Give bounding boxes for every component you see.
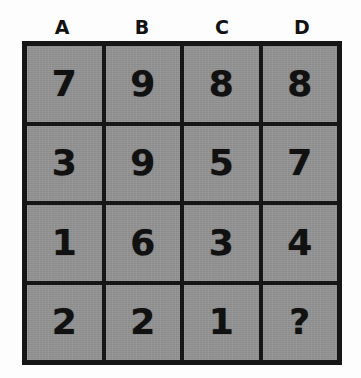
column-header-a-label: A: [55, 18, 70, 37]
grid-cell-a3[interactable]: 1: [27, 205, 102, 281]
column-header-b: B: [102, 13, 182, 41]
grid-cell-d1[interactable]: 8: [263, 46, 338, 122]
grid-cell-d4[interactable]: ?: [263, 285, 338, 361]
grid-cell-c2-value: 5: [209, 145, 234, 181]
grid-cell-d4-value-unknown: ?: [289, 304, 310, 340]
number-grid: 7 9 8 8 3 9 5 7 1 6 3: [22, 41, 342, 365]
grid-cell-a1-value: 7: [52, 66, 77, 102]
grid-cell-c1-value: 8: [209, 66, 234, 102]
grid-cell-b3[interactable]: 6: [106, 205, 181, 281]
grid-cell-a1[interactable]: 7: [27, 46, 102, 122]
grid-cell-a2-value: 3: [52, 145, 77, 181]
column-header-row: A B C D: [22, 13, 342, 41]
column-header-b-label: B: [135, 18, 149, 37]
grid-cell-a4-value: 2: [52, 304, 77, 340]
grid-cell-b1-value: 9: [130, 66, 155, 102]
grid-cell-c2[interactable]: 5: [184, 126, 259, 202]
grid-cell-d3[interactable]: 4: [263, 205, 338, 281]
grid-cell-b2[interactable]: 9: [106, 126, 181, 202]
grid-cell-d3-value: 4: [287, 225, 312, 261]
grid-cell-c3-value: 3: [209, 225, 234, 261]
grid-cell-a2[interactable]: 3: [27, 126, 102, 202]
grid-cell-b4-value: 2: [130, 304, 155, 340]
grid-cell-d2-value: 7: [287, 145, 312, 181]
column-header-d-label: D: [294, 18, 310, 37]
grid-cell-c4[interactable]: 1: [184, 285, 259, 361]
grid-cell-c1[interactable]: 8: [184, 46, 259, 122]
grid-cell-c4-value: 1: [209, 304, 234, 340]
column-header-a: A: [22, 13, 102, 41]
grid-cell-a4[interactable]: 2: [27, 285, 102, 361]
grid-cell-d1-value: 8: [287, 66, 312, 102]
column-header-c: C: [182, 13, 262, 41]
column-header-c-label: C: [215, 18, 229, 37]
column-header-d: D: [262, 13, 342, 41]
grid-cell-a3-value: 1: [52, 225, 77, 261]
grid-cell-b1[interactable]: 9: [106, 46, 181, 122]
grid-cell-b2-value: 9: [130, 145, 155, 181]
grid-cell-b3-value: 6: [130, 225, 155, 261]
grid-cell-d2[interactable]: 7: [263, 126, 338, 202]
grid-cell-c3[interactable]: 3: [184, 205, 259, 281]
grid-cell-b4[interactable]: 2: [106, 285, 181, 361]
puzzle-container: A B C D 7 9 8 8 3 9 5: [0, 0, 361, 378]
